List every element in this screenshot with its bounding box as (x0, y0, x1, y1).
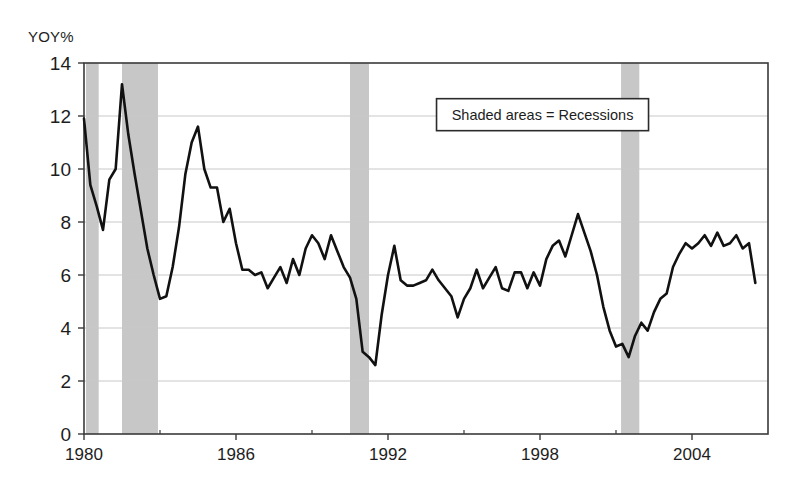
chart-container: YOY% 02468101214 19801986199219982004 Sh… (0, 0, 800, 491)
legend-label: Shaded areas = Recessions (452, 107, 634, 123)
y-tick-label: 6 (60, 265, 71, 286)
y-tick-label: 10 (50, 159, 71, 180)
x-tick-label: 1998 (521, 445, 559, 464)
y-tick-label: 8 (60, 212, 71, 233)
y-tick-label: 2 (60, 371, 71, 392)
y-tick-label: 0 (60, 424, 71, 445)
y-tick-label: 12 (50, 106, 71, 127)
line-chart-svg: 02468101214 19801986199219982004 Shaded … (0, 0, 800, 491)
x-tick-label: 1986 (217, 445, 255, 464)
axes-frame (84, 63, 768, 434)
recession-band (350, 63, 369, 434)
data-series-line (84, 84, 755, 365)
y-tick-label: 4 (60, 318, 71, 339)
y-tick-label: 14 (50, 53, 72, 74)
x-tick-label: 2004 (673, 445, 711, 464)
series-line-yoy-percent (84, 84, 755, 365)
x-axis-ticks: 19801986199219982004 (65, 430, 711, 464)
legend-box: Shaded areas = Recessions (437, 99, 649, 131)
horizontal-gridlines (84, 63, 768, 381)
x-tick-label: 1992 (369, 445, 407, 464)
plot-frame (84, 63, 768, 434)
y-axis-ticks: 02468101214 (50, 53, 84, 445)
x-tick-label: 1980 (65, 445, 103, 464)
recession-band (86, 63, 99, 434)
